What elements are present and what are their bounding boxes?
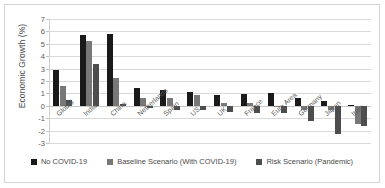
legend-swatch-icon [31, 159, 37, 165]
bar [241, 94, 247, 106]
bar [86, 41, 92, 105]
bar [348, 105, 354, 106]
bar [194, 95, 200, 106]
bar [200, 106, 206, 110]
bar-group [183, 19, 210, 143]
bar [268, 93, 274, 106]
bar [107, 34, 113, 106]
chart-legend: No COVID-19Baseline Scenario (With COVID… [5, 157, 379, 166]
y-tick-label-0: 0 [41, 101, 45, 110]
y-tick-mark--3 [46, 143, 49, 144]
y-tick-label-5: 5 [41, 39, 45, 48]
bar [227, 106, 233, 112]
bar [295, 98, 301, 105]
legend-swatch-icon [107, 159, 113, 165]
bar-group [237, 19, 264, 143]
bar-group [344, 19, 371, 143]
y-tick-label-1: 1 [41, 89, 45, 98]
bar-group [49, 19, 76, 143]
bar [113, 78, 119, 106]
y-tick-label--2: -2 [38, 126, 45, 135]
y-tick-label-3: 3 [41, 64, 45, 73]
bar [80, 35, 86, 106]
bar-group [210, 19, 237, 143]
gridline--3 [49, 143, 371, 144]
legend-label: No COVID-19 [41, 157, 87, 166]
y-tick-label-6: 6 [41, 27, 45, 36]
bar [93, 64, 99, 106]
bar-group [317, 19, 344, 143]
bar-group [291, 19, 318, 143]
y-tick-label--1: -1 [38, 114, 45, 123]
legend-label: Risk Scenario (Pandemic) [266, 157, 353, 166]
y-tick-label-4: 4 [41, 52, 45, 61]
y-axis-title: Economic Growth (%) [17, 11, 27, 121]
legend-item[interactable]: Baseline Scenario (With COVID-19) [107, 157, 236, 166]
bar-group [130, 19, 157, 143]
plot-area: 76543210-1-2-3 [49, 19, 371, 143]
legend-label: Baseline Scenario (With COVID-19) [117, 157, 236, 166]
bar [187, 92, 193, 106]
y-tick-label-2: 2 [41, 77, 45, 86]
legend-item[interactable]: Risk Scenario (Pandemic) [256, 157, 353, 166]
y-tick-label--3: -3 [38, 139, 45, 148]
y-tick-label-7: 7 [41, 15, 45, 24]
bar [214, 95, 220, 106]
bar [321, 101, 327, 106]
chart-container: Economic Growth (%) 76543210-1-2-3 Globa… [4, 4, 380, 183]
legend-swatch-icon [256, 159, 262, 165]
bar-group [156, 19, 183, 143]
legend-item[interactable]: No COVID-19 [31, 157, 87, 166]
bar [134, 88, 140, 105]
bar-group [264, 19, 291, 143]
bar-group [103, 19, 130, 143]
bar-group [76, 19, 103, 143]
bar [53, 70, 59, 106]
